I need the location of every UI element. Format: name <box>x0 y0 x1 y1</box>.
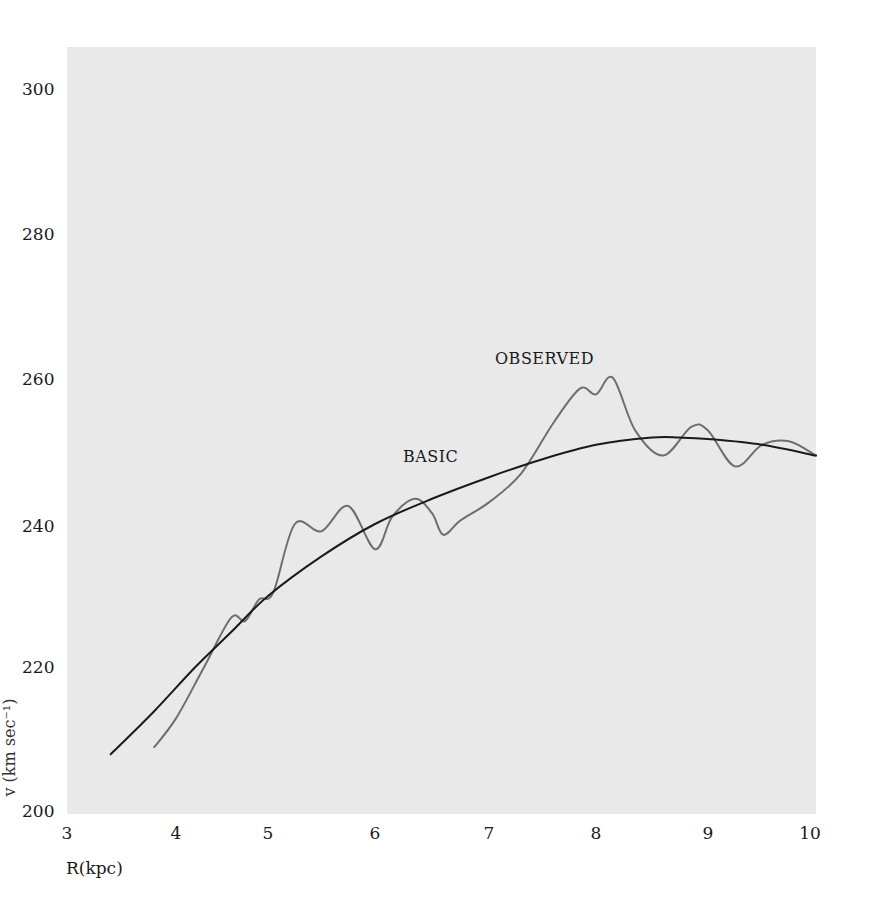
y-tick-220: 220 <box>22 657 62 677</box>
y-tick-240: 240 <box>22 516 62 536</box>
y-tick-280: 280 <box>22 224 62 244</box>
basic-curve <box>111 437 816 754</box>
x-tick-6: 6 <box>355 823 395 843</box>
x-axis-label: R(kpc) <box>66 858 123 878</box>
y-tick-300: 300 <box>22 79 62 99</box>
x-tick-8: 8 <box>576 823 616 843</box>
x-tick-7: 7 <box>469 823 509 843</box>
y-tick-260: 260 <box>22 369 62 389</box>
x-tick-5: 5 <box>248 823 288 843</box>
x-tick-10: 10 <box>790 823 830 843</box>
observed-series-label: OBSERVED <box>495 349 594 368</box>
x-tick-3: 3 <box>47 823 87 843</box>
observed-curve <box>154 377 816 747</box>
basic-series-label: BASIC <box>403 447 458 466</box>
x-tick-9: 9 <box>688 823 728 843</box>
x-tick-4: 4 <box>156 823 196 843</box>
y-axis-label: v (km sec⁻¹) <box>0 693 19 803</box>
y-tick-200: 200 <box>22 801 62 821</box>
